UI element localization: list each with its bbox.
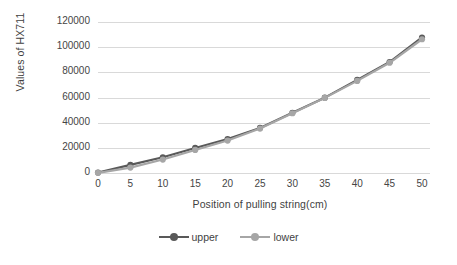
y-tick-label: 100000	[32, 40, 90, 51]
series-line-lower	[98, 39, 422, 173]
chart-legend: upperlower	[0, 231, 457, 243]
legend-label: lower	[273, 231, 298, 243]
data-point-lower	[127, 164, 133, 170]
x-tick-label: 25	[245, 178, 275, 189]
x-tick-label: 40	[342, 178, 372, 189]
x-tick-label: 20	[213, 178, 243, 189]
data-point-lower	[257, 125, 263, 131]
x-tick-label: 35	[310, 178, 340, 189]
data-point-lower	[387, 60, 393, 66]
data-point-lower	[95, 170, 101, 176]
y-tick-label: 20000	[32, 141, 90, 152]
legend-marker-icon	[159, 232, 189, 242]
data-point-lower	[192, 147, 198, 153]
x-tick-label: 50	[407, 178, 437, 189]
legend-item-lower[interactable]: lower	[240, 231, 298, 243]
data-point-lower	[225, 137, 231, 143]
data-point-lower	[322, 95, 328, 101]
x-tick-label: 0	[83, 178, 113, 189]
y-tick-label: 0	[32, 166, 90, 177]
x-tick-label: 45	[375, 178, 405, 189]
x-tick-label: 10	[148, 178, 178, 189]
y-tick-label: 40000	[32, 116, 90, 127]
y-tick-label: 80000	[32, 65, 90, 76]
x-tick-label: 5	[115, 178, 145, 189]
data-point-lower	[160, 156, 166, 162]
data-point-lower	[419, 36, 425, 42]
y-tick-label: 60000	[32, 91, 90, 102]
series-line-upper	[98, 37, 422, 172]
x-tick-label: 30	[277, 178, 307, 189]
series-layer	[98, 22, 430, 173]
x-tick-label: 15	[180, 178, 210, 189]
data-point-lower	[354, 78, 360, 84]
chart-container: Values of HX711 020000400006000080000100…	[0, 0, 457, 265]
plot-area	[98, 22, 430, 173]
legend-marker-icon	[240, 232, 270, 242]
legend-label: upper	[192, 231, 219, 243]
gridline	[98, 173, 430, 174]
legend-item-upper[interactable]: upper	[159, 231, 219, 243]
x-axis-title: Position of pulling string(cm)	[98, 198, 422, 210]
y-tick-label: 120000	[32, 15, 90, 26]
y-axis-title: Values of HX711	[14, 0, 26, 117]
data-point-lower	[289, 110, 295, 116]
